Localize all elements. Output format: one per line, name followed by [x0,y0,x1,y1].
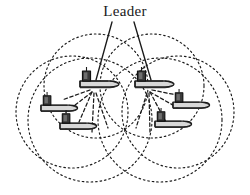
communication-link [149,93,150,132]
leader-pointer-line [96,22,112,80]
vessel-leader-right[interactable] [135,67,174,88]
range-circle [16,56,128,168]
diagram-canvas: Leader [0,0,250,195]
vessel-follower-left-upper[interactable] [41,92,78,112]
communication-link [136,93,147,128]
vessel-follower-left-lower[interactable] [60,110,97,130]
vessel-leader-left[interactable] [80,67,119,88]
communication-link [62,90,90,100]
figure-container: Leader [0,0,250,195]
leader-label: Leader [103,3,146,19]
